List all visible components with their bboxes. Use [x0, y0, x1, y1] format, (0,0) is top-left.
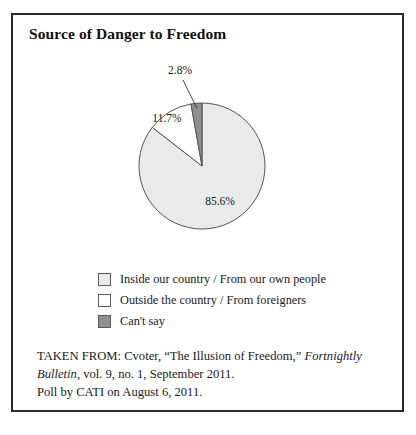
- legend-item-inside-our-country[interactable]: Inside our country / From our own people: [98, 269, 348, 290]
- pie-label-cant-say: 2.8%: [168, 64, 192, 76]
- legend-item-cant-say[interactable]: Can't say: [98, 311, 348, 332]
- source-citation: TAKEN FROM: Cvoter, “The Illusion of Fre…: [37, 348, 377, 402]
- legend-label-outside-the-country: Outside the country / From foreigners: [120, 294, 306, 306]
- legend-swatch-outside-the-country: [98, 294, 111, 307]
- pie-chart: 2.8% 11.7% 85.6%: [120, 60, 296, 240]
- legend-item-outside-the-country[interactable]: Outside the country / From foreigners: [98, 290, 348, 311]
- legend-label-cant-say: Can't say: [120, 315, 165, 327]
- source-journal-name-part1: Fortnightly: [304, 349, 361, 363]
- legend-swatch-inside-our-country: [98, 273, 111, 286]
- source-line-2: Bulletin, vol. 9, no. 1, September 2011.: [37, 366, 377, 384]
- source-volume-info: , vol. 9, no. 1, September 2011.: [77, 367, 235, 381]
- source-taken-from-prefix: TAKEN FROM: Cvoter, “The Illusion of Fre…: [37, 349, 304, 363]
- source-journal-name-part2: Bulletin: [37, 367, 77, 381]
- page-title: Source of Danger to Freedom: [29, 25, 226, 43]
- legend-swatch-cant-say: [98, 315, 111, 328]
- pie-chart-svg: 2.8% 11.7% 85.6%: [120, 60, 296, 240]
- pie-label-outside-the-country: 11.7%: [152, 112, 182, 124]
- source-line-1: TAKEN FROM: Cvoter, “The Illusion of Fre…: [37, 348, 377, 366]
- pie-label-inside-our-country: 85.6%: [205, 195, 235, 207]
- source-line-3: Poll by CATI on August 6, 2011.: [37, 384, 377, 402]
- legend-label-inside-our-country: Inside our country / From our own people: [120, 273, 326, 285]
- figure-root: Source of Danger to Freedom 2.8% 11.7% 8…: [0, 0, 416, 435]
- chart-legend: Inside our country / From our own people…: [98, 269, 348, 332]
